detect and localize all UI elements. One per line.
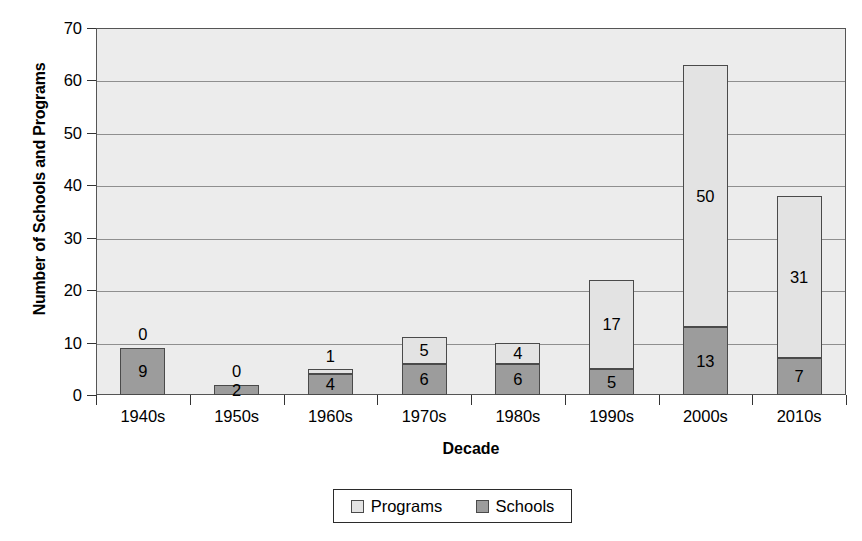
bar-group[interactable]: 1350: [683, 28, 728, 395]
bar-chart: Number of Schools and Programs 010203040…: [0, 0, 862, 541]
y-axis-label: 30: [64, 230, 82, 247]
bar-group[interactable]: 65: [402, 28, 447, 395]
bar-segment-programs[interactable]: 50: [683, 65, 728, 327]
x-axis: 1940s1950s1960s1970s1980s1990s2000s2010s: [96, 395, 846, 435]
chart-legend: ProgramsSchools: [333, 489, 572, 523]
x-axis-label: 1990s: [565, 408, 659, 425]
bar-segment-schools[interactable]: 6: [495, 364, 540, 395]
x-axis-label: 1940s: [96, 408, 190, 425]
x-axis-label: 2000s: [659, 408, 753, 425]
x-axis-tick: [471, 395, 472, 405]
bar-group[interactable]: 731: [777, 28, 822, 395]
bar-segment-programs[interactable]: [308, 369, 353, 374]
x-axis-tick: [377, 395, 378, 405]
x-axis-label: 1960s: [284, 408, 378, 425]
bar-group[interactable]: 64: [495, 28, 540, 395]
x-axis-tick: [190, 395, 191, 405]
bar-segment-programs[interactable]: 31: [777, 196, 822, 359]
bar-segment-programs[interactable]: 4: [495, 343, 540, 364]
bar-segment-schools[interactable]: 6: [402, 364, 447, 395]
x-axis-tick: [752, 395, 753, 405]
x-axis-label: 1950s: [190, 408, 284, 425]
y-axis-label: 60: [64, 72, 82, 89]
x-axis-tick: [565, 395, 566, 405]
bar-segment-schools[interactable]: 2: [214, 385, 259, 395]
y-axis-label: 40: [64, 177, 82, 194]
bar-value-label-programs: 0: [214, 363, 259, 380]
bar-segment-schools[interactable]: 5: [589, 369, 634, 395]
y-axis-label: 50: [64, 125, 82, 142]
y-axis-tick: [87, 343, 96, 344]
x-axis-label: 1980s: [471, 408, 565, 425]
y-axis-tick: [87, 80, 96, 81]
x-axis-label: 1970s: [377, 408, 471, 425]
y-axis-label: 10: [64, 335, 82, 352]
bar-group[interactable]: 90: [120, 28, 165, 395]
y-axis-label: 0: [73, 387, 82, 404]
bar-segment-programs[interactable]: 17: [589, 280, 634, 369]
x-axis-tick: [659, 395, 660, 405]
x-axis-tick: [284, 395, 285, 405]
legend-item[interactable]: Programs: [351, 498, 443, 515]
y-axis-label: 20: [64, 282, 82, 299]
bar-group[interactable]: 20: [214, 28, 259, 395]
y-axis-tick: [87, 238, 96, 239]
bar-value-label-programs: 0: [120, 326, 165, 343]
y-axis-tick: [87, 395, 96, 396]
legend-label: Programs: [371, 498, 443, 515]
bar-segment-schools[interactable]: 13: [683, 327, 728, 395]
y-axis-tick: [87, 133, 96, 134]
bars-layer: 90204165645171350731: [96, 28, 846, 395]
legend-item[interactable]: Schools: [476, 498, 555, 515]
bar-segment-programs[interactable]: 5: [402, 337, 447, 363]
x-axis-tick: [96, 395, 97, 405]
bar-value-label-programs: 1: [308, 348, 353, 365]
y-axis: 010203040506070: [0, 0, 96, 541]
legend-swatch-icon: [476, 500, 489, 513]
x-axis-tick: [846, 395, 847, 405]
bar-segment-schools[interactable]: 7: [777, 358, 822, 395]
bar-group[interactable]: 517: [589, 28, 634, 395]
bar-segment-schools[interactable]: 9: [120, 348, 165, 395]
x-axis-title: Decade: [96, 440, 846, 458]
legend-label: Schools: [496, 498, 555, 515]
x-axis-label: 2010s: [752, 408, 846, 425]
bar-segment-schools[interactable]: 4: [308, 374, 353, 395]
y-axis-tick: [87, 28, 96, 29]
legend-swatch-icon: [351, 500, 364, 513]
y-axis-label: 70: [64, 20, 82, 37]
y-axis-tick: [87, 185, 96, 186]
bar-group[interactable]: 41: [308, 28, 353, 395]
y-axis-tick: [87, 290, 96, 291]
